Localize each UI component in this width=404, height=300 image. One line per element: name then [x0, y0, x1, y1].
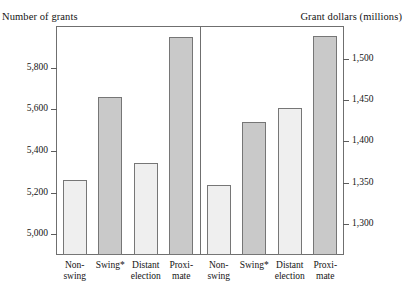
category-label-line: Distant: [128, 260, 164, 271]
tick-label: 1,400: [352, 136, 373, 146]
category-label: Proxi-mate: [164, 260, 200, 281]
tick-mark: [343, 59, 349, 60]
category-label-line: Non-: [57, 260, 93, 271]
category-label: Non-swing: [57, 260, 93, 281]
bar-swing: [98, 97, 122, 255]
tick-mark: [343, 141, 349, 142]
tick-label: 5,000: [27, 229, 48, 239]
category-label-line: election: [272, 271, 308, 282]
tick-mark: [51, 234, 57, 235]
bar-non-swing: [63, 180, 87, 255]
category-label-line: election: [128, 271, 164, 282]
figure: Number of grants Grant dollars (millions…: [0, 0, 404, 300]
tick-label: 1,450: [352, 95, 373, 105]
bar-swing: [242, 122, 266, 255]
category-label-line: swing: [57, 271, 93, 282]
tick-label: 1,350: [352, 178, 373, 188]
tick-mark: [51, 193, 57, 194]
category-label: Distantelection: [272, 260, 308, 281]
tick-label: 5,800: [27, 63, 48, 73]
bar-distant-election: [134, 163, 158, 255]
category-label: Swing*: [237, 260, 273, 271]
right-axis-caption: Grant dollars (millions): [300, 11, 402, 22]
category-label-line: mate: [308, 271, 344, 282]
category-label: Non-swing: [201, 260, 237, 281]
left-axis-caption: Number of grants: [2, 11, 78, 22]
tick-label: 1,300: [352, 219, 373, 229]
category-label-line: Proxi-: [308, 260, 344, 271]
category-label-line: Swing*: [93, 260, 129, 271]
bar-distant-election: [278, 108, 302, 255]
tick-label: 5,200: [27, 188, 48, 198]
tick-label: 5,400: [27, 146, 48, 156]
tick-label: 5,600: [27, 104, 48, 114]
tick-mark: [51, 151, 57, 152]
category-label-line: Distant: [272, 260, 308, 271]
tick-mark: [51, 109, 57, 110]
category-label: Proxi-mate: [308, 260, 344, 281]
category-label: Swing*: [93, 260, 129, 271]
tick-label: 1,500: [352, 54, 373, 64]
category-label-line: swing: [201, 271, 237, 282]
category-label-line: Non-: [201, 260, 237, 271]
bar-proximate: [313, 36, 337, 255]
tick-mark: [343, 100, 349, 101]
bar-non-swing: [207, 185, 231, 255]
tick-mark: [51, 68, 57, 69]
bar-proximate: [169, 37, 193, 255]
category-label-line: Swing*: [237, 260, 273, 271]
category-label-line: Proxi-: [164, 260, 200, 271]
panel-divider: [200, 26, 201, 255]
category-label: Distantelection: [128, 260, 164, 281]
tick-mark: [343, 224, 349, 225]
category-label-line: mate: [164, 271, 200, 282]
tick-mark: [343, 183, 349, 184]
